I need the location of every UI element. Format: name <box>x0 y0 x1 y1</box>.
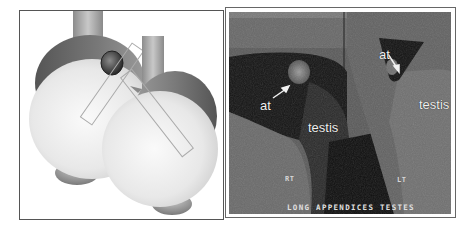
illustration-panel <box>19 10 224 220</box>
ultrasound-image: at testis at testis RT LT LONG APPENDICE… <box>229 12 451 214</box>
label-right-appendix: at <box>260 99 271 112</box>
marker-rt: RT <box>285 176 294 183</box>
marker-lt: LT <box>397 177 406 184</box>
ultrasound-scan <box>229 12 451 214</box>
figure: at testis at testis RT LT LONG APPENDICE… <box>0 0 471 230</box>
label-left-appendix: at <box>379 48 390 61</box>
testes-illustration <box>20 11 224 220</box>
ultrasound-panel: at testis at testis RT LT LONG APPENDICE… <box>225 7 456 218</box>
ultrasound-caption: LONG APPENDICES TESTES <box>287 204 415 212</box>
label-left-testis: testis <box>419 98 449 111</box>
label-right-testis: testis <box>308 121 338 134</box>
